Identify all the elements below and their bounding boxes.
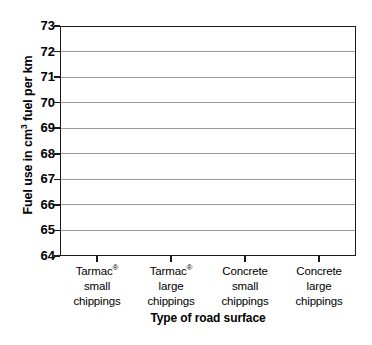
x-axis-tick-mark [170,256,172,262]
gridline [61,153,355,154]
bar-chart: Fuel use in cm3 fuel per km 737271706968… [0,0,372,345]
y-axis-tick-label: 70 [29,96,55,109]
gridline [61,179,355,180]
y-axis-tick-label: 71 [29,70,55,83]
y-axis-tick-label: 67 [29,172,55,185]
x-axis-tick-label-line: small [60,279,134,294]
y-axis-tick-label: 66 [29,198,55,211]
x-axis-tick-label-line: Tarmac® [134,264,208,279]
x-axis-tick-label-line: large [134,279,208,294]
x-axis-tick-label: Tarmac®largechippings [134,264,208,312]
gridline [61,128,355,129]
x-axis-tick-label-line: small [208,279,282,294]
gridline [61,102,355,103]
x-axis-tick-mark [244,256,246,262]
y-axis-tick-labels: 73727170696867666564 [28,0,55,345]
x-axis-tick-label-line: chippings [134,294,208,309]
plot-area [60,26,356,256]
gridline [61,204,355,205]
x-axis-tick-mark [96,256,98,262]
x-axis-tick-label: Concretesmallchippings [208,264,282,312]
x-axis-tick-label: Tarmac®smallchippings [60,264,134,312]
x-axis-tick-label-line: large [282,279,356,294]
y-axis-tick-label: 72 [29,45,55,58]
x-axis-tick-mark [318,256,320,262]
x-axis-tick-label-line: Concrete [208,264,282,279]
registered-trademark-icon: ® [113,263,119,272]
x-axis-tick-label: Concretelargechippings [282,264,356,312]
x-axis-title: Type of road surface [60,311,356,325]
y-axis-tick-label: 68 [29,147,55,160]
y-axis-tick-label: 64 [29,249,55,262]
gridline [61,51,355,52]
x-axis-tick-label-line: chippings [208,294,282,309]
gridline [61,77,355,78]
y-axis-tick-label: 73 [29,19,55,32]
gridline [61,230,355,231]
x-axis-tick-label-line: chippings [282,294,356,309]
y-axis-tick-label: 69 [29,121,55,134]
y-axis-tick-label: 65 [29,223,55,236]
registered-trademark-icon: ® [187,263,193,272]
x-axis-tick-labels: Tarmac®smallchippingsTarmac®largechippin… [60,264,356,312]
x-axis-tick-label-line: Concrete [282,264,356,279]
x-axis-tick-label-line: Tarmac® [60,264,134,279]
x-axis-tick-label-line: chippings [60,294,134,309]
